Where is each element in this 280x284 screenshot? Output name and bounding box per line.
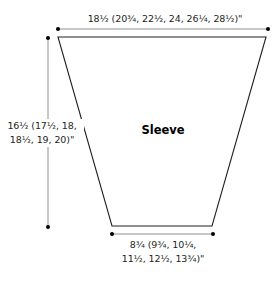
length-label-line2: 18½, 19, 20)" — [0, 133, 84, 147]
bottom-width-label: 8¾ (9¾, 10¼, 11½, 12½, 13¾)" — [100, 238, 226, 266]
length-label-line1: 16½ (17½, 18, — [0, 119, 84, 133]
piece-title: Sleeve — [130, 122, 196, 138]
length-label: 16½ (17½, 18, 18½, 19, 20)" — [0, 119, 84, 147]
top-width-dimension-line — [56, 27, 270, 31]
bottom-width-label-line2: 11½, 12½, 13¾)" — [100, 252, 226, 266]
bottom-width-dimension-line — [110, 232, 215, 236]
top-width-label: 18½ (20¾, 22½, 24, 26¼, 28½)" — [62, 12, 268, 26]
bottom-width-label-line1: 8¾ (9¾, 10¼, — [100, 238, 226, 252]
